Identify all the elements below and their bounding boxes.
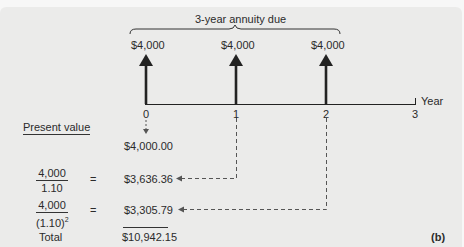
pv-denominator-base: (1.10) bbox=[36, 217, 65, 229]
total-label: Total bbox=[39, 231, 62, 243]
discount-arrow-year-1 bbox=[176, 118, 237, 182]
panel-label: (b) bbox=[431, 231, 445, 243]
year-tick-3: 3 bbox=[412, 108, 418, 120]
cash-flow-arrow-year-2 bbox=[319, 54, 333, 104]
total-value: $10,942.15 bbox=[122, 231, 177, 243]
discount-arrow-year-2 bbox=[178, 118, 327, 213]
equals-sign: = bbox=[90, 204, 96, 216]
pv-numerator: 4,000 bbox=[36, 199, 68, 213]
brace-icon bbox=[130, 25, 340, 34]
pv-denominator: (1.10)2 bbox=[36, 213, 68, 229]
cash-flow-arrow-year-0 bbox=[139, 54, 153, 104]
pv-value-year-2: $3,305.79 bbox=[124, 204, 173, 216]
pv-formula-year-1: 4,000 1.10 bbox=[36, 167, 68, 194]
diagram-title: 3-year annuity due bbox=[195, 13, 286, 25]
discount-arrow-year-0 bbox=[143, 120, 149, 134]
cash-flow-label-year-1: $4,000 bbox=[221, 39, 255, 51]
cash-flow-label-year-0: $4,000 bbox=[131, 39, 165, 51]
pv-value-year-0: $4,000.00 bbox=[124, 140, 173, 152]
pv-formula-year-2: 4,000 (1.10)2 bbox=[36, 199, 68, 229]
year-tick-1: 1 bbox=[233, 108, 239, 120]
pv-denominator: 1.10 bbox=[36, 181, 68, 194]
cash-flow-arrow-year-1 bbox=[229, 54, 243, 104]
cash-flow-label-year-2: $4,000 bbox=[311, 39, 345, 51]
pv-value-year-1: $3,636.36 bbox=[124, 173, 173, 185]
year-tick-2: 2 bbox=[323, 108, 329, 120]
year-tick-0: 0 bbox=[143, 108, 149, 120]
pv-exponent: 2 bbox=[65, 216, 69, 223]
present-value-heading: Present value bbox=[23, 121, 90, 135]
pv-numerator: 4,000 bbox=[36, 167, 68, 181]
axis-label-year: Year bbox=[421, 95, 443, 107]
equals-sign: = bbox=[90, 173, 96, 185]
